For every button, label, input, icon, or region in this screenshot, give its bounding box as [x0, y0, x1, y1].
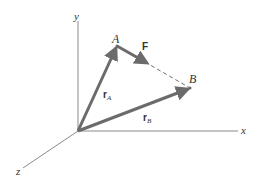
point-B-label: B: [189, 73, 196, 85]
vector-diagram: [0, 0, 259, 182]
vector-rB-label: rB: [143, 108, 151, 124]
y-axis-label: y: [74, 11, 79, 22]
z-axis-label: z: [16, 166, 20, 177]
vector-rA-subscript: A: [107, 94, 111, 102]
x-axis-label: x: [241, 125, 246, 136]
vector-F-label: F: [142, 42, 148, 52]
point-B: [189, 87, 192, 90]
vector-rB-subscript: B: [147, 117, 151, 125]
z-axis: [23, 131, 78, 168]
line-of-action-AB: [145, 62, 190, 88]
vector-rA-label: rA: [103, 85, 111, 101]
point-A-label: A: [112, 33, 119, 45]
